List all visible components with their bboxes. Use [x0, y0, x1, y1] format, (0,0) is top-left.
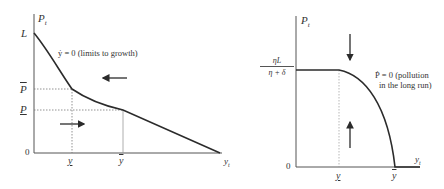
left-origin-label: 0 [25, 148, 30, 157]
right-tick-ybar: y [392, 171, 396, 181]
left-x-axis-label: yt [224, 157, 230, 168]
fraction-numerator: ηL [260, 57, 294, 67]
left-tick-punder: P [20, 104, 27, 115]
left-panel [34, 14, 222, 153]
right-tick-fraction: ηL η + δ [260, 57, 294, 77]
left-tick-ybar: y [119, 156, 123, 166]
diagram-canvas [0, 0, 444, 189]
right-curve-label: Ṗ = 0 (pollution in the long run) [375, 71, 432, 91]
fraction-denominator: η + δ [260, 67, 294, 77]
right-tick-yunder: y [336, 171, 340, 181]
right-curve-label-line2: in the long run) [375, 81, 432, 91]
left-tick-pbar: P [20, 84, 27, 95]
right-panel [296, 16, 420, 167]
right-origin-label: 0 [286, 162, 291, 171]
left-tick-yunder: y [68, 156, 72, 166]
right-x-axis-label: yt [415, 155, 421, 166]
left-tick-L: L [21, 28, 27, 39]
left-y-axis-label: Pt [38, 13, 47, 27]
right-y-axis-label: Pt [301, 15, 310, 29]
left-curve-label: ẏ = 0 (limits to growth) [58, 49, 138, 59]
